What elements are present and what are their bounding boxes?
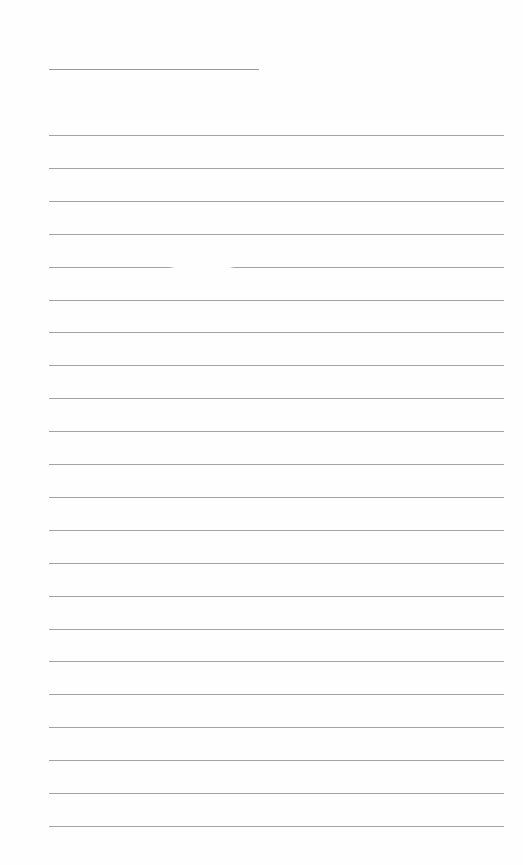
ruled-line xyxy=(49,267,504,268)
ruled-line xyxy=(49,596,504,597)
ruled-line xyxy=(49,201,504,202)
ruled-line xyxy=(49,398,504,399)
ruled-line xyxy=(49,332,504,333)
ruled-line xyxy=(49,300,504,301)
ruled-line xyxy=(49,661,504,662)
ruled-line xyxy=(49,234,504,235)
ruled-line xyxy=(49,826,504,827)
ruled-line xyxy=(49,365,504,366)
ruled-line xyxy=(49,135,504,136)
lined-page xyxy=(0,0,523,865)
ruled-line xyxy=(49,497,504,498)
ruled-line xyxy=(49,464,504,465)
title-line xyxy=(49,69,259,70)
ruled-line xyxy=(49,530,504,531)
ruled-line xyxy=(49,760,504,761)
ruled-line xyxy=(49,727,504,728)
ruled-line xyxy=(49,431,504,432)
ruled-line xyxy=(49,694,504,695)
ruled-line xyxy=(49,168,504,169)
ruled-line xyxy=(49,563,504,564)
ruled-line xyxy=(49,793,504,794)
ruled-line xyxy=(49,629,504,630)
